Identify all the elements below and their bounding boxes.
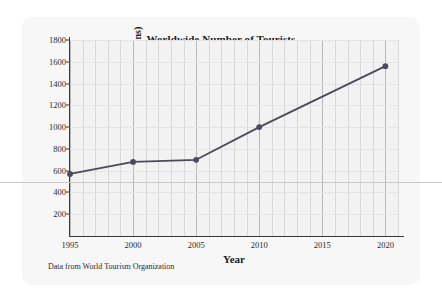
y-tick-label: 1600 [49,57,66,67]
source-caption: Data from World Tourism Organization [48,262,174,271]
data-point-marker [67,171,73,177]
y-tick-label: 800 [53,144,66,154]
y-tick-label: 1800 [49,35,66,45]
data-point-marker [130,159,136,165]
y-tick-label: 1400 [49,79,66,89]
gridline-vertical [398,40,399,236]
x-tick-label: 2010 [251,240,268,250]
y-tick-label: 1200 [49,100,66,110]
data-point-marker [193,157,199,163]
data-point-marker [382,63,388,69]
data-point-marker [256,124,262,130]
x-tick-label: 2000 [125,240,142,250]
x-tick-label: 1995 [62,240,79,250]
x-tick-label: 2005 [188,240,205,250]
y-tick-label: 400 [53,187,66,197]
y-tick-label: 1000 [49,122,66,132]
plot-area: 20040060080010001200140016001800 1995200… [70,40,398,236]
x-tick-label: 2020 [377,240,394,250]
y-tick-label: 200 [53,209,66,219]
series-line [70,66,385,174]
data-series-line [70,40,398,236]
figure-card: Worldwide Number of Tourists Tourists (i… [22,17,420,285]
y-tick-label: 600 [53,166,66,176]
x-tick-label: 2015 [314,240,331,250]
horizontal-scan-line [0,182,442,183]
